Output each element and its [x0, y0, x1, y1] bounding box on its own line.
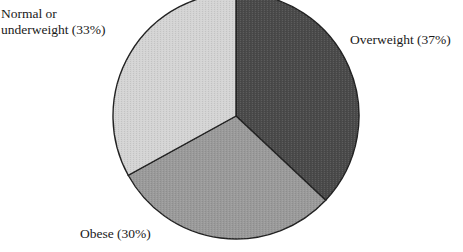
label-obese: Obese (30%) — [80, 226, 151, 242]
label-overweight: Overweight (37%) — [350, 32, 451, 48]
label-normal-line1: Normal or — [1, 6, 106, 22]
pie-slices — [113, 0, 359, 239]
label-normal-or-underweight: Normal or underweight (33%) — [1, 6, 106, 38]
label-normal-line2: underweight (33%) — [1, 22, 106, 38]
